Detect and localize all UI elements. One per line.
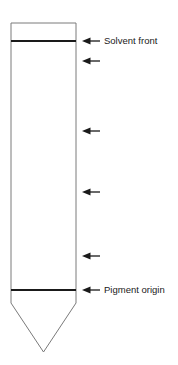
arrow-shaft xyxy=(90,289,101,290)
strip-shape xyxy=(11,23,76,352)
solvent-front-label: Solvent front xyxy=(104,35,158,46)
chromatography-strip-outline xyxy=(11,23,76,352)
arrow-head-icon xyxy=(82,188,91,195)
arrow-head-icon xyxy=(82,37,91,44)
arrow-shaft xyxy=(90,130,101,131)
arrow-head-icon xyxy=(82,57,91,64)
arrow-shaft xyxy=(90,60,101,61)
arrow-head-icon xyxy=(82,252,91,259)
arrow-head-icon xyxy=(82,127,91,134)
arrow-band-3 xyxy=(82,127,100,134)
arrow-head-icon xyxy=(82,286,91,293)
chromatography-strip-figure: Solvent front Pigment origin xyxy=(0,0,178,365)
pigment-origin-label: Pigment origin xyxy=(104,284,165,295)
arrow-pigment-origin xyxy=(82,286,100,293)
arrow-band-5 xyxy=(82,252,100,259)
arrow-band-2 xyxy=(82,57,100,64)
arrow-solvent-front xyxy=(82,37,100,44)
arrow-band-4 xyxy=(82,188,100,195)
arrow-shaft xyxy=(90,40,101,41)
arrow-shaft xyxy=(90,255,101,256)
arrow-shaft xyxy=(90,191,101,192)
chromatography-diagram: Solvent front Pigment origin xyxy=(0,0,178,365)
